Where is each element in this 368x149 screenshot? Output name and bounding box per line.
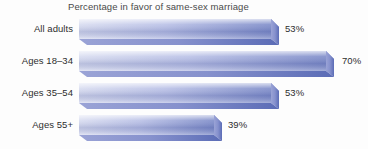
bar-value-label: 53% xyxy=(285,23,304,34)
bar-all-adults xyxy=(79,19,279,45)
bar-value-label: 39% xyxy=(228,119,247,130)
category-label: Ages 18–34 xyxy=(0,55,73,66)
bar-row: Ages 18–34 xyxy=(0,50,368,82)
category-label: All adults xyxy=(0,23,73,34)
bar-shape xyxy=(79,83,279,109)
bar-ages-55-plus xyxy=(79,115,222,141)
bar-shape xyxy=(79,19,279,45)
bar-ages-18-34 xyxy=(79,51,334,77)
category-label: Ages 55+ xyxy=(0,119,73,130)
bar-shape xyxy=(79,51,334,77)
bar-row: All adults xyxy=(0,18,368,50)
category-label: Ages 35–54 xyxy=(0,87,73,98)
bar-value-label: 70% xyxy=(342,55,361,66)
bar-row: Ages 35–54 xyxy=(0,82,368,114)
chart-title: Percentage in favor of same-sex marriage xyxy=(68,1,249,12)
bar-shape xyxy=(79,115,222,141)
bar-value-label: 53% xyxy=(285,87,304,98)
bar-ages-35-54 xyxy=(79,83,279,109)
bar-row: Ages 55+ xyxy=(0,114,368,146)
plot-area: All adults xyxy=(0,18,368,149)
bar-chart: Percentage in favor of same-sex marriage… xyxy=(0,0,368,149)
